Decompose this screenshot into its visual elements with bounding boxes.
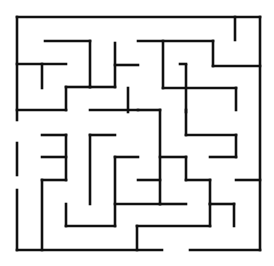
maze-canvas bbox=[0, 0, 274, 266]
